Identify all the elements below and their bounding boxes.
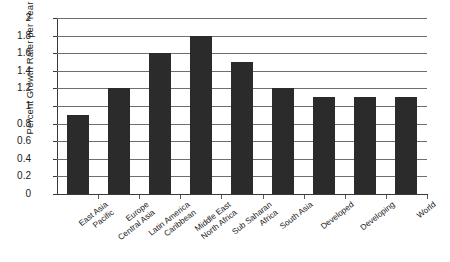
y-tick-label: 0.4 — [1, 154, 31, 164]
bar — [67, 115, 89, 194]
y-tick-label: 0.2 — [1, 171, 31, 181]
gridline — [57, 53, 427, 54]
x-axis-label-line1: Developing — [359, 200, 397, 232]
x-tick-mark — [304, 195, 305, 199]
bar — [149, 53, 171, 194]
y-tick-mark — [53, 88, 57, 89]
x-tick-mark — [98, 195, 99, 199]
bar — [272, 88, 294, 194]
x-axis-label: World — [362, 200, 439, 262]
x-tick-mark — [180, 195, 181, 199]
x-axis-label: Developing — [320, 200, 397, 262]
y-tick-label: 0 — [1, 189, 31, 199]
y-tick-label: 0.6 — [1, 136, 31, 146]
y-tick-mark — [53, 18, 57, 19]
y-tick-label: 1.6 — [1, 48, 31, 58]
gridline — [57, 36, 427, 37]
y-tick-mark — [53, 106, 57, 107]
y-tick-label: 1 — [1, 101, 31, 111]
bar — [231, 62, 253, 194]
y-tick-mark — [53, 194, 57, 195]
y-tick-label: 1.8 — [1, 31, 31, 41]
x-axis-label-line1: World — [416, 200, 438, 220]
bar — [190, 36, 212, 194]
bar — [354, 97, 376, 194]
x-tick-mark — [263, 195, 264, 199]
y-tick-mark — [53, 53, 57, 54]
bar-chart: Percent Growth Rater per Year 21.81.61.4… — [0, 0, 450, 262]
y-tick-mark — [53, 71, 57, 72]
x-axis-label-line1: South Asia — [278, 200, 314, 231]
x-tick-mark — [345, 195, 346, 199]
bar — [108, 88, 130, 194]
gridline — [57, 18, 427, 19]
y-tick-mark — [53, 36, 57, 37]
y-tick-mark — [53, 124, 57, 125]
y-tick-mark — [53, 141, 57, 142]
y-tick-mark — [53, 159, 57, 160]
y-tick-label: 2 — [1, 13, 31, 23]
plot-area: 21.81.61.41.210.80.60.40.20 East AsiaPac… — [57, 18, 427, 194]
x-tick-mark — [427, 195, 428, 199]
y-tick-label: 1.2 — [1, 83, 31, 93]
x-axis-label-line1: Developed — [319, 200, 355, 231]
y-tick-label: 0.8 — [1, 119, 31, 129]
bar — [313, 97, 335, 194]
x-tick-mark — [221, 195, 222, 199]
bar — [395, 97, 417, 194]
x-tick-mark — [139, 195, 140, 199]
y-tick-label: 1.4 — [1, 66, 31, 76]
y-tick-mark — [53, 176, 57, 177]
x-axis-label: Developed — [279, 200, 356, 262]
x-tick-mark — [386, 195, 387, 199]
x-axis-line — [57, 194, 428, 195]
